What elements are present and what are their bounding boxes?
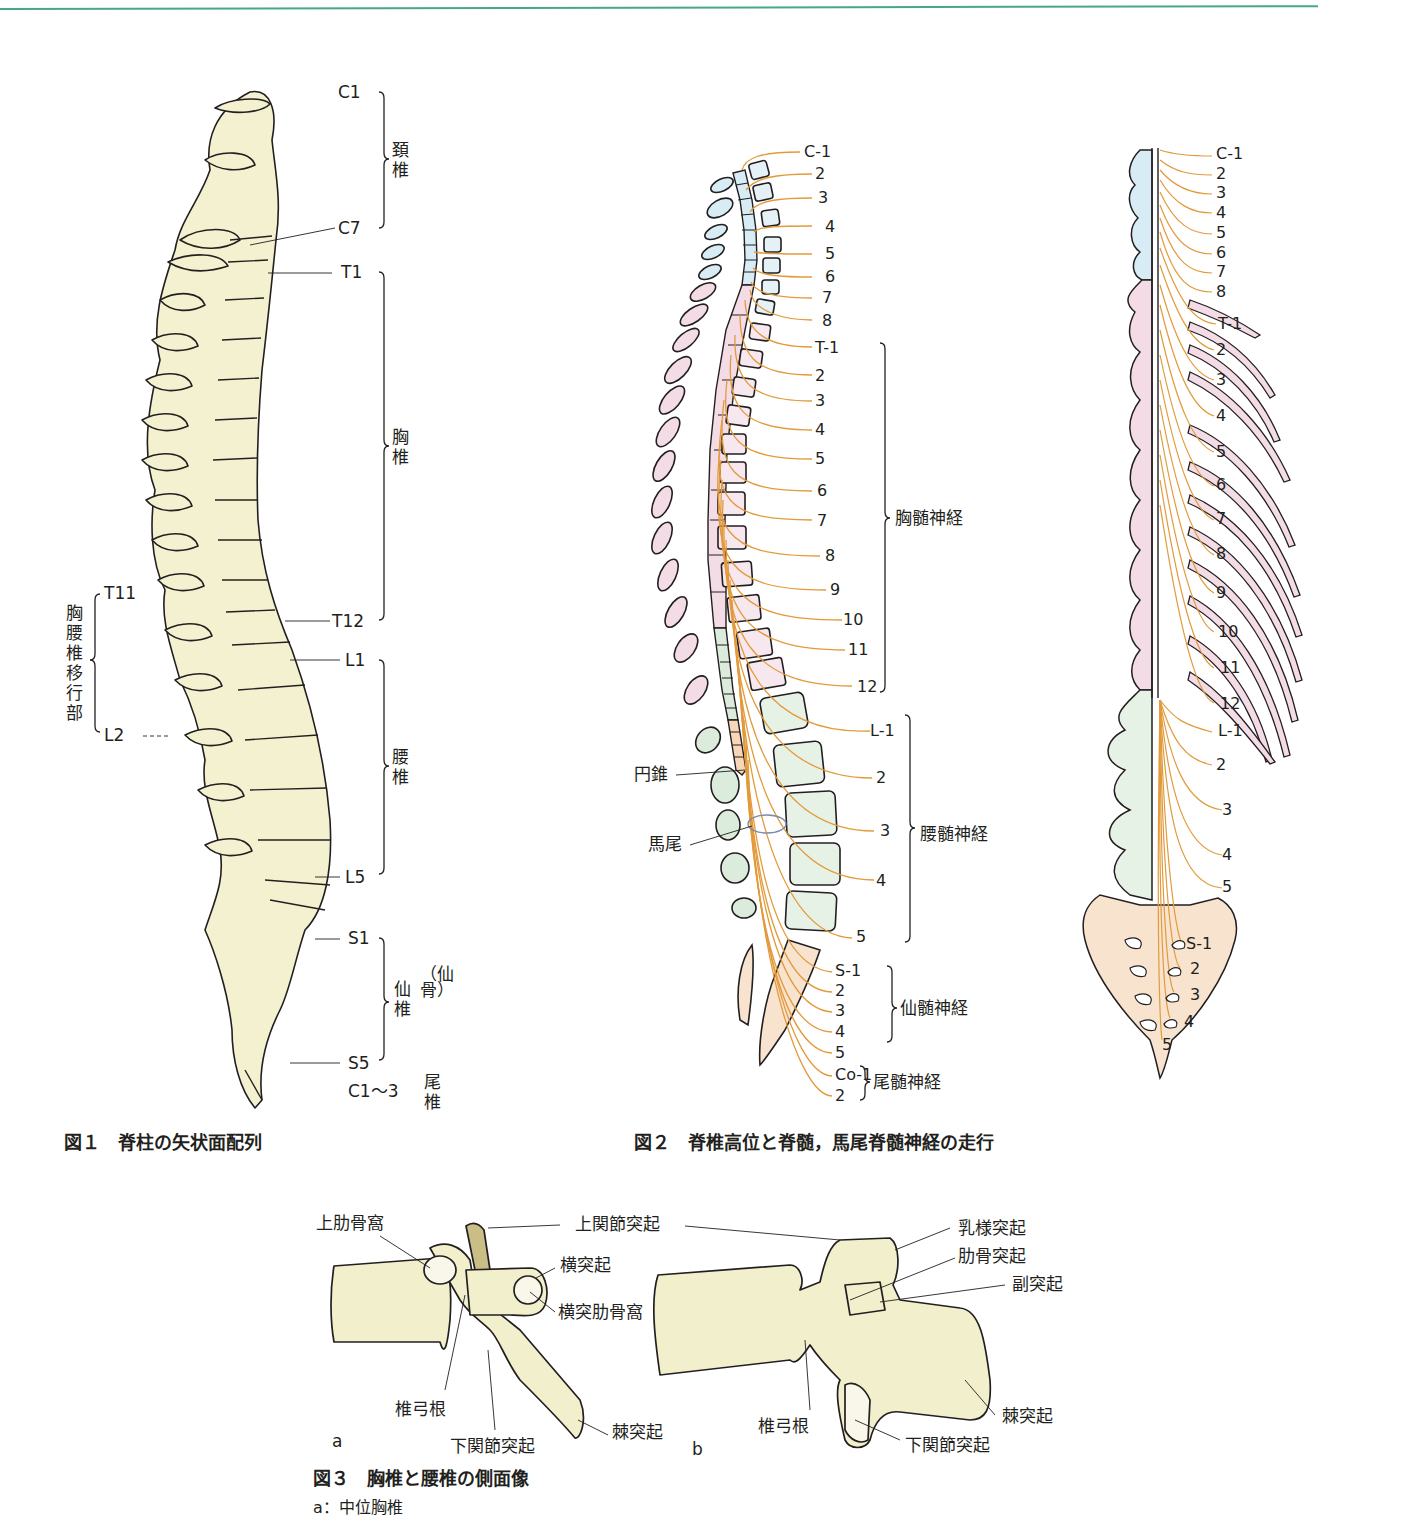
nerve-label: 3 bbox=[835, 1003, 845, 1019]
figure-2-caption: 図２ 脊椎高位と脊髄，馬尾脊髄神経の走行 bbox=[634, 1128, 994, 1154]
nerve-label: 12 bbox=[1220, 696, 1240, 712]
nerve-label: 6 bbox=[1216, 477, 1226, 493]
group-thoracic-nerves: 胸髄神経 bbox=[895, 510, 963, 527]
nerve-label: 7 bbox=[817, 513, 827, 529]
nerve-label: 2 bbox=[1190, 961, 1200, 977]
nerve-label: 5 bbox=[856, 929, 866, 945]
nerve-label: S-1 bbox=[835, 963, 861, 979]
nerve-label: 5 bbox=[1216, 444, 1226, 460]
label-t12: T12 bbox=[332, 613, 364, 630]
nerve-label: 4 bbox=[825, 219, 835, 235]
label-conus-medullaris: 円錐 bbox=[634, 766, 668, 783]
region-coccygeal: 尾椎 bbox=[422, 1072, 442, 1112]
label-inferior-articular-process-a: 下関節突起 bbox=[450, 1438, 535, 1455]
nerve-label: 2 bbox=[1216, 166, 1226, 182]
figure-3-vertebra-lateral-illustration bbox=[0, 0, 1403, 1522]
panel-b-label: b bbox=[692, 1441, 703, 1458]
nerve-label: 4 bbox=[1216, 205, 1226, 221]
label-spinous-process-a: 棘突起 bbox=[612, 1424, 663, 1441]
nerve-label: 11 bbox=[848, 642, 868, 658]
region-thoracic: 胸椎 bbox=[390, 427, 410, 467]
nerve-label: 5 bbox=[1162, 1037, 1172, 1053]
nerve-label: 8 bbox=[822, 313, 832, 329]
label-l2: L2 bbox=[104, 727, 124, 744]
label-superior-costal-fovea: 上肋骨窩 bbox=[316, 1215, 384, 1232]
label-accessory-process: 副突起 bbox=[1012, 1276, 1063, 1293]
nerve-label: 2 bbox=[815, 166, 825, 182]
nerve-label: 5 bbox=[835, 1045, 845, 1061]
nerve-label: 4 bbox=[835, 1024, 845, 1040]
region-sacrum: （仙骨） bbox=[420, 966, 440, 998]
region-lumbar: 腰椎 bbox=[390, 747, 410, 787]
label-coccyx-range: C1～3 bbox=[348, 1083, 399, 1100]
nerve-label: 7 bbox=[1216, 511, 1226, 527]
group-lumbar-nerves: 腰髄神経 bbox=[920, 826, 988, 843]
label-superior-articular-process: 上関節突起 bbox=[575, 1216, 660, 1233]
region-thoracolumbar-transition: 胸腰椎移行部 bbox=[64, 603, 84, 723]
label-t11: T11 bbox=[104, 585, 136, 602]
nerve-label: 9 bbox=[1216, 585, 1226, 601]
nerve-label: 2 bbox=[1216, 342, 1226, 358]
nerve-label: 5 bbox=[1222, 879, 1232, 895]
nerve-label: 10 bbox=[1218, 624, 1238, 640]
nerve-label: 6 bbox=[825, 269, 835, 285]
nerve-label: 4 bbox=[1184, 1014, 1194, 1030]
nerve-label: 8 bbox=[825, 548, 835, 564]
figure-3-subcaption: a：中位胸椎 bbox=[313, 1494, 403, 1518]
label-l1: L1 bbox=[345, 652, 365, 669]
label-c1: C1 bbox=[338, 84, 361, 101]
nerve-label: T-1 bbox=[815, 340, 839, 356]
nerve-label: 12 bbox=[857, 679, 877, 695]
nerve-label: 6 bbox=[1216, 245, 1226, 261]
label-costal-process: 肋骨突起 bbox=[958, 1248, 1026, 1265]
nerve-label: 3 bbox=[1216, 372, 1226, 388]
nerve-label: 5 bbox=[825, 246, 835, 262]
nerve-label: Co-1 bbox=[835, 1067, 872, 1083]
group-sacral-nerves: 仙髄神経 bbox=[900, 1000, 968, 1017]
nerve-label: 7 bbox=[1216, 264, 1226, 280]
nerve-label: 11 bbox=[1220, 660, 1240, 676]
nerve-label: 3 bbox=[1216, 185, 1226, 201]
nerve-label: C-1 bbox=[804, 144, 831, 160]
label-cauda-equina: 馬尾 bbox=[648, 836, 682, 853]
label-t1: T1 bbox=[341, 264, 362, 281]
nerve-label: 9 bbox=[830, 582, 840, 598]
nerve-label: 2 bbox=[835, 1088, 845, 1104]
label-s1: S1 bbox=[348, 930, 370, 947]
nerve-label: 3 bbox=[1190, 987, 1200, 1003]
nerve-label: L-1 bbox=[1218, 723, 1243, 739]
nerve-label: S-1 bbox=[1186, 936, 1212, 952]
nerve-label: 3 bbox=[818, 190, 828, 206]
figure-3-caption: 図３ 胸椎と腰椎の側面像 bbox=[313, 1464, 529, 1490]
nerve-label: 2 bbox=[876, 770, 886, 786]
label-s5: S5 bbox=[348, 1055, 370, 1072]
figure-1-caption: 図１ 脊柱の矢状面配列 bbox=[64, 1128, 262, 1154]
nerve-label: 4 bbox=[1216, 408, 1226, 424]
label-l5: L5 bbox=[345, 869, 365, 886]
nerve-label: 5 bbox=[815, 451, 825, 467]
nerve-label: C-1 bbox=[1216, 146, 1243, 162]
label-transverse-process: 横突起 bbox=[560, 1257, 611, 1274]
nerve-label: 2 bbox=[835, 983, 845, 999]
label-pedicle-b: 椎弓根 bbox=[758, 1418, 809, 1435]
label-mammillary-process: 乳様突起 bbox=[958, 1220, 1026, 1237]
nerve-label: 4 bbox=[1222, 847, 1232, 863]
region-sacral: 仙椎 bbox=[392, 979, 412, 1019]
nerve-label: T-1 bbox=[1218, 316, 1242, 332]
label-transverse-costal-fovea: 横突肋骨窩 bbox=[558, 1304, 643, 1321]
region-cervical: 頚椎 bbox=[390, 140, 410, 180]
nerve-label: 7 bbox=[822, 290, 832, 306]
group-coccygeal-nerves: 尾髄神経 bbox=[873, 1074, 941, 1091]
nerve-label: 4 bbox=[876, 873, 886, 889]
nerve-label: 2 bbox=[1216, 757, 1226, 773]
label-c7: C7 bbox=[338, 220, 361, 237]
nerve-label: 8 bbox=[1216, 284, 1226, 300]
nerve-label: 5 bbox=[1216, 225, 1226, 241]
nerve-label: 6 bbox=[817, 483, 827, 499]
label-inferior-articular-process-b: 下関節突起 bbox=[905, 1437, 990, 1454]
panel-a-label: a bbox=[332, 1433, 342, 1450]
nerve-label: 10 bbox=[843, 612, 863, 628]
nerve-label: L-1 bbox=[870, 723, 895, 739]
nerve-label: 8 bbox=[1216, 546, 1226, 562]
label-spinous-process-b: 棘突起 bbox=[1002, 1408, 1053, 1425]
